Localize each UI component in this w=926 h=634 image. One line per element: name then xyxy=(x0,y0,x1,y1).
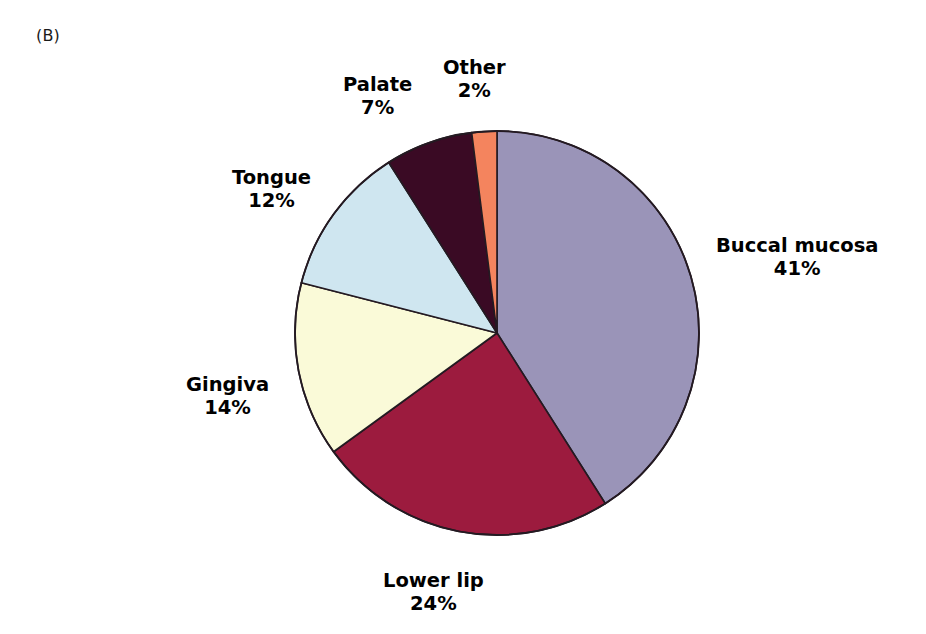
slice-label-percent: 24% xyxy=(383,592,484,615)
slice-label-buccal-mucosa: Buccal mucosa 41% xyxy=(716,234,878,280)
slice-label-percent: 12% xyxy=(232,189,311,212)
slice-label-gingiva: Gingiva 14% xyxy=(186,373,269,419)
slice-label-palate: Palate 7% xyxy=(343,73,412,119)
figure-panel: (B) Buccal mucosa 41% Lower lip 24% Ging… xyxy=(0,0,926,634)
slice-label-name: Palate xyxy=(343,73,412,96)
slice-label-percent: 7% xyxy=(343,96,412,119)
slice-label-other: Other 2% xyxy=(443,56,506,102)
slice-label-name: Lower lip xyxy=(383,569,484,592)
slice-label-percent: 2% xyxy=(443,79,506,102)
slice-label-name: Buccal mucosa xyxy=(716,234,878,257)
slice-label-name: Gingiva xyxy=(186,373,269,396)
slice-label-percent: 41% xyxy=(716,257,878,280)
slice-label-lower-lip: Lower lip 24% xyxy=(383,569,484,615)
slice-label-name: Tongue xyxy=(232,166,311,189)
pie-slice-group xyxy=(295,131,699,535)
slice-label-percent: 14% xyxy=(186,396,269,419)
slice-label-tongue: Tongue 12% xyxy=(232,166,311,212)
slice-label-name: Other xyxy=(443,56,506,79)
